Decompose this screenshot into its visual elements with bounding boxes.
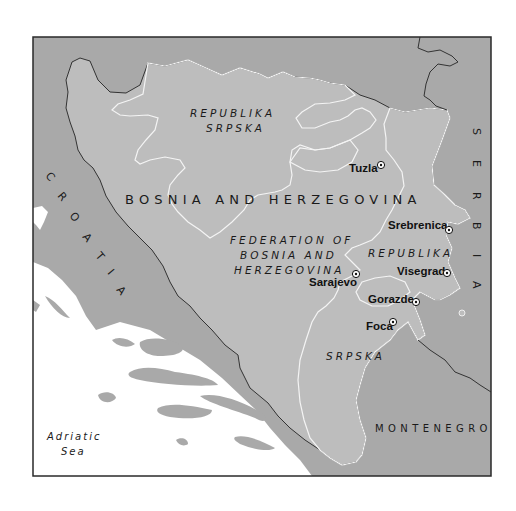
city-name: Sarajevo [309,276,357,288]
rs-north-label-line2: SRPSKA [206,122,265,134]
city-marker-icon [389,318,396,325]
city-marker-icon [412,298,419,305]
rs-north-label-line1: REPUBLIKA [190,107,275,119]
serbia-letter: S [470,128,483,135]
city-marker-icon [445,226,452,233]
country-label: BOSNIA AND HERZEGOVINA [125,192,421,207]
city-name: Visegrad [397,265,445,277]
serbia-letter: R [470,192,483,200]
serbia-letter: I [470,254,483,257]
city-visegrad: Visegrad [397,265,451,277]
city-gorazde: Gorazde [368,293,420,306]
bosnia-map: BOSNIA AND HERZEGOVINA C R O A T I A S E… [0,0,516,511]
rs-east-label-line2: SRPSKA [326,350,385,362]
city-name: Gorazde [368,293,414,305]
serbia-letter: E [470,160,483,167]
serbia-letter: B [470,222,483,230]
federation-label-line2: BOSNIA AND [240,249,337,261]
city-name: Tuzla [349,162,378,174]
city-marker-icon [377,161,384,168]
lake-icon [459,310,465,316]
rs-east-label-line1: REPUBLIKA [368,247,453,259]
sea-label-line1: Adriatic [46,431,101,442]
sea-label-line2: Sea [61,446,86,457]
federation-label-line3: HERZEGOVINA [234,264,344,276]
city-marker-icon [443,269,450,276]
city-marker-icon [352,270,359,277]
montenegro-label: MONTENEGRO [375,423,492,434]
federation-label-line1: FEDERATION OF [230,234,353,246]
city-foca: Foca [366,318,397,332]
serbia-letter: A [470,281,483,289]
city-name: Srebrenica [388,219,448,231]
